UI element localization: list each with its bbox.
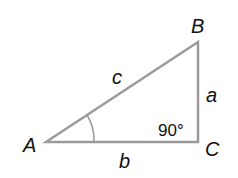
vertex-a-label: A bbox=[22, 134, 36, 156]
side-c-label: c bbox=[112, 66, 122, 88]
side-a-label: a bbox=[206, 84, 217, 106]
angle-a-arc bbox=[87, 115, 94, 142]
side-b-label: b bbox=[119, 150, 130, 172]
triangle-diagram: A B C a b c 90° bbox=[0, 0, 238, 178]
vertex-c-label: C bbox=[205, 138, 220, 160]
vertex-b-label: B bbox=[191, 15, 204, 37]
right-angle-label: 90° bbox=[158, 121, 184, 140]
